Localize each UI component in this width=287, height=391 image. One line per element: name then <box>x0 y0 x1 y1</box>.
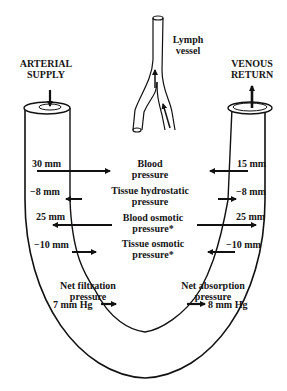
lymph-vessel-label: Lymph vessel <box>173 34 204 56</box>
lymph-vessel <box>133 16 175 132</box>
arterial-label-line2: SUPPLY <box>20 69 72 80</box>
arterial-supply-label: ARTERIAL SUPPLY <box>20 58 72 80</box>
venous-label-line2: RETURN <box>231 69 273 80</box>
force-name: Blood <box>132 158 168 169</box>
net-absorption-line1: Net absorption <box>181 280 245 291</box>
lymph-label-line2: vessel <box>173 45 204 56</box>
arterial-label-line1: ARTERIAL <box>20 58 72 69</box>
force-name: Blood osmotic <box>123 212 183 223</box>
force-name: pressure* <box>123 223 183 234</box>
force-name: pressure <box>132 169 168 180</box>
venous-tissue-osmotic-value: −10 mm <box>226 239 261 250</box>
arterial-blood-pressure-value: 30 mm <box>32 158 61 169</box>
arterial-tube-opening <box>24 102 70 114</box>
arterial-tissue-osmotic-value: −10 mm <box>34 239 69 250</box>
arterial-tissue-hydrostatic-value: −8 mm <box>30 186 60 197</box>
force-name: Tissue hydrostatic <box>111 185 189 196</box>
venous-return-label: VENOUS RETURN <box>231 58 273 80</box>
venous-blood-osmotic-value: 25 mm <box>236 211 265 222</box>
net-filtration-value: 7 mm Hg <box>53 299 92 310</box>
force-name: Tissue osmotic <box>122 238 184 249</box>
force-blood-osmotic: Blood osmotic pressure* <box>123 212 183 234</box>
force-tissue-osmotic: Tissue osmotic pressure* <box>122 238 184 260</box>
net-filtration-line1: Net filtration <box>60 280 116 291</box>
lymph-label-line1: Lymph <box>173 34 204 45</box>
force-blood-pressure: Blood pressure <box>132 158 168 180</box>
venous-tissue-hydrostatic-value: −8 mm <box>236 186 266 197</box>
force-tissue-hydrostatic: Tissue hydrostatic pressure <box>111 185 189 207</box>
force-name: pressure <box>111 196 189 207</box>
net-absorption-value: 8 mm Hg <box>208 299 247 310</box>
force-name: pressure* <box>122 249 184 260</box>
venous-tube-opening <box>228 102 272 114</box>
venous-blood-pressure-value: 15 mm <box>237 158 266 169</box>
venous-label-line1: VENOUS <box>231 58 273 69</box>
arterial-blood-osmotic-value: 25 mm <box>36 211 65 222</box>
